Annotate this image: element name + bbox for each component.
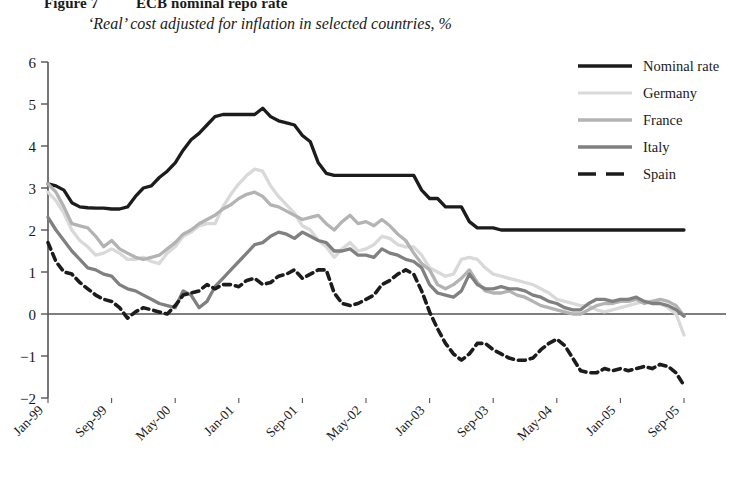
legend-label-spain: Spain <box>643 166 677 182</box>
x-axis-tick-label: May-00 <box>132 402 173 443</box>
x-axis-tick-label: Sep-05 <box>644 402 682 440</box>
y-axis-tick-label: 1 <box>29 265 37 281</box>
legend-label-nominal-rate: Nominal rate <box>643 58 719 74</box>
series-line-nominal-rate <box>48 108 684 230</box>
figure-container: Figure 7 ECB nominal repo rate ‘Real’ co… <box>0 0 731 480</box>
x-axis-labels: Jan-99Sep-99May-00Jan-01Sep-01May-02Jan-… <box>10 398 684 443</box>
x-axis-tick-label: Sep-01 <box>263 403 301 441</box>
figure-title: ECB nominal repo rate <box>136 0 287 12</box>
y-axis-tick-label: −1 <box>20 349 36 365</box>
y-axis-tick-label: 6 <box>29 55 37 71</box>
y-axis-tick-label: 5 <box>29 97 37 113</box>
x-axis-tick-label: May-02 <box>323 403 364 444</box>
x-axis-tick-label: Jan-99 <box>10 402 46 438</box>
y-axis-tick-label: 0 <box>29 307 37 323</box>
x-axis-tick-label: Jan-01 <box>201 403 237 439</box>
y-axis-tick-label: 3 <box>29 181 37 197</box>
series-group <box>48 108 684 385</box>
series-line-italy <box>48 217 684 316</box>
x-axis-tick-label: Sep-03 <box>454 402 492 440</box>
x-axis-tick-label: May-04 <box>514 402 555 443</box>
y-axis-tick-label: 2 <box>29 223 37 239</box>
x-axis-tick-label: Sep-99 <box>72 402 110 440</box>
legend-label-france: France <box>643 112 682 128</box>
legend-label-italy: Italy <box>643 139 670 155</box>
x-axis-tick-label: Jan-05 <box>582 402 618 438</box>
chart-plot-area: 6543210−1−2 Jan-99Sep-99May-00Jan-01Sep-… <box>0 44 731 480</box>
figure-header: Figure 7 ECB nominal repo rate ‘Real’ co… <box>0 0 731 44</box>
figure-subtitle: ‘Real’ cost adjusted for inflation in se… <box>88 15 452 33</box>
y-axis-tick-label: 4 <box>29 139 37 155</box>
x-axis-tick-label: Jan-03 <box>392 402 428 438</box>
line-chart: 6543210−1−2 Jan-99Sep-99May-00Jan-01Sep-… <box>0 44 731 480</box>
figure-number: Figure 7 <box>44 0 98 12</box>
legend-label-germany: Germany <box>643 85 698 101</box>
legend: Nominal rateGermanyFranceItalySpain <box>578 58 719 182</box>
